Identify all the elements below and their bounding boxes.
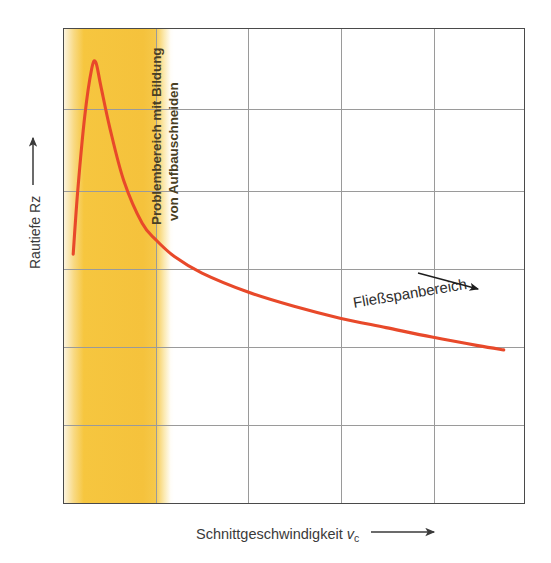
band-caption-line-2: von Aufbauschneiden (165, 28, 182, 221)
shaded-region-caption: Problembereich mit Bildung von Aufbausch… (148, 28, 182, 225)
y-axis-label: Rautiefe Rz (25, 109, 43, 269)
up-arrow-icon (25, 128, 41, 186)
x-axis-subscript: c (354, 532, 359, 544)
right-arrow-icon (370, 524, 446, 540)
x-axis-label-text: Schnittgeschwindigkeit (196, 526, 343, 542)
arrow-pointer-icon (416, 265, 525, 305)
x-axis-symbol: v (347, 526, 354, 542)
chart-figure: Problembereich mit Bildung von Aufbausch… (0, 0, 551, 563)
x-axis-label: Schnittgeschwindigkeit vc (196, 524, 446, 544)
plot-area: Problembereich mit Bildung von Aufbausch… (63, 28, 525, 504)
y-axis-label-text: Rautiefe Rz (27, 196, 43, 269)
data-curve-rautiefe (73, 61, 504, 350)
band-caption-line-1: Problembereich mit Bildung (148, 28, 165, 225)
